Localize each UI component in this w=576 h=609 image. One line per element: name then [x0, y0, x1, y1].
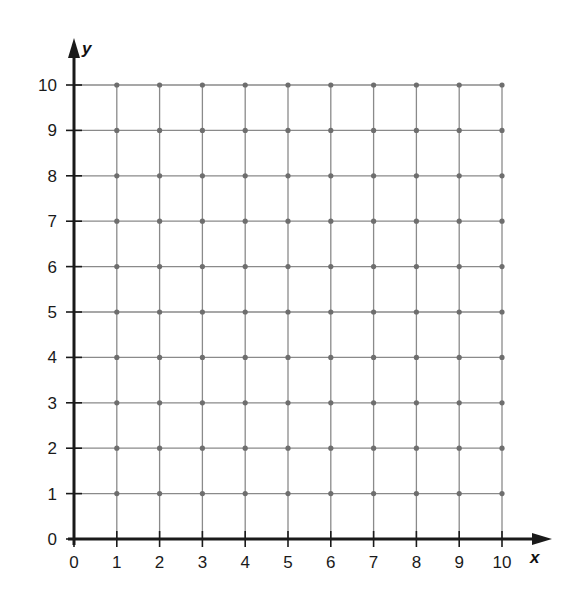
x-axis-tick-labels: 012345678910 [69, 553, 511, 572]
grid-point-dot [328, 82, 333, 87]
x-tick-label: 10 [493, 553, 512, 572]
grid-point-dot [499, 264, 504, 269]
x-tick-label: 7 [369, 553, 378, 572]
grid-point-dot [499, 355, 504, 360]
grid-point-dot [243, 400, 248, 405]
grid-point-dot [114, 491, 119, 496]
grid-point-dot [414, 173, 419, 178]
grid-point-dot [371, 264, 376, 269]
y-axis-tick-labels: 012345678910 [38, 76, 57, 549]
grid-point-dot [457, 219, 462, 224]
y-tick-label: 9 [48, 121, 57, 140]
grid-point-dot [371, 82, 376, 87]
grid-point-dot [285, 355, 290, 360]
grid-point-dot [157, 219, 162, 224]
grid-point-dot [499, 309, 504, 314]
grid-point-dot [200, 128, 205, 133]
grid-point-dot [457, 82, 462, 87]
grid-point-dot [414, 491, 419, 496]
grid-point-dot [499, 446, 504, 451]
grid-point-dot [457, 128, 462, 133]
grid-point-dot [285, 309, 290, 314]
grid-point-dot [157, 355, 162, 360]
x-tick-label: 2 [155, 553, 164, 572]
y-tick-label: 1 [48, 485, 57, 504]
grid-point-dot [114, 355, 119, 360]
x-tick-label: 5 [283, 553, 292, 572]
grid-point-dot [328, 219, 333, 224]
grid-point-dot [114, 82, 119, 87]
grid-point-dot [243, 219, 248, 224]
grid-point-dot [371, 128, 376, 133]
grid-point-dot [243, 446, 248, 451]
x-tick-label: 3 [198, 553, 207, 572]
grid-point-dot [328, 128, 333, 133]
grid-point-dot [457, 309, 462, 314]
x-tick-label: 4 [240, 553, 249, 572]
x-axis-arrow-icon [532, 533, 552, 545]
grid-point-dot [243, 173, 248, 178]
grid-point-dot [200, 264, 205, 269]
x-tick-label: 6 [326, 553, 335, 572]
grid-point-dot [200, 446, 205, 451]
grid-point-dot [414, 309, 419, 314]
grid-point-dot [371, 446, 376, 451]
grid-point-dot [414, 219, 419, 224]
grid-point-dot [328, 355, 333, 360]
grid-point-dot [371, 309, 376, 314]
grid-point-dot [243, 491, 248, 496]
grid-point-dot [243, 355, 248, 360]
grid-point-dot [285, 491, 290, 496]
grid-point-dot [328, 491, 333, 496]
grid-point-dot [457, 446, 462, 451]
grid-point-dot [157, 128, 162, 133]
grid-point-dot [200, 355, 205, 360]
grid-point-dot [114, 264, 119, 269]
grid-point-dot [414, 264, 419, 269]
y-tick-label: 5 [48, 303, 57, 322]
grid-point-dot [243, 264, 248, 269]
grid-point-dot [499, 400, 504, 405]
grid-point-dot [157, 446, 162, 451]
grid-point-dot [457, 173, 462, 178]
grid-point-dot [285, 82, 290, 87]
grid-point-dot [328, 446, 333, 451]
grid-point-dot [200, 173, 205, 178]
grid-point-dot [114, 173, 119, 178]
grid-point-dot [243, 128, 248, 133]
grid-point-dot [157, 264, 162, 269]
grid-point-dot [457, 400, 462, 405]
grid-point-dot [328, 309, 333, 314]
grid-point-dot [285, 400, 290, 405]
grid-point-dot [414, 128, 419, 133]
y-tick-label: 6 [48, 258, 57, 277]
grid-point-dot [499, 173, 504, 178]
grid-point-dot [499, 491, 504, 496]
grid-points [114, 82, 504, 496]
grid-point-dot [457, 355, 462, 360]
grid-point-dot [285, 173, 290, 178]
y-tick-label: 7 [48, 212, 57, 231]
x-tick-label: 1 [112, 553, 121, 572]
grid-point-dot [328, 264, 333, 269]
grid-point-dot [499, 219, 504, 224]
grid-point-dot [200, 309, 205, 314]
grid-point-dot [457, 491, 462, 496]
x-tick-label: 0 [69, 553, 78, 572]
grid-point-dot [457, 264, 462, 269]
grid-point-dot [157, 173, 162, 178]
grid-point-dot [328, 173, 333, 178]
grid-point-dot [243, 309, 248, 314]
grid-point-dot [114, 446, 119, 451]
grid-point-dot [285, 128, 290, 133]
grid-point-dot [285, 264, 290, 269]
grid-point-dot [371, 491, 376, 496]
coordinate-grid-chart: 012345678910 012345678910 x y [0, 0, 576, 609]
x-tick-label: 9 [454, 553, 463, 572]
grid-point-dot [414, 82, 419, 87]
grid-point-dot [157, 82, 162, 87]
y-axis-label: y [81, 39, 93, 58]
grid-point-dot [328, 400, 333, 405]
grid-point-dot [114, 219, 119, 224]
axis-ticks [66, 85, 502, 547]
